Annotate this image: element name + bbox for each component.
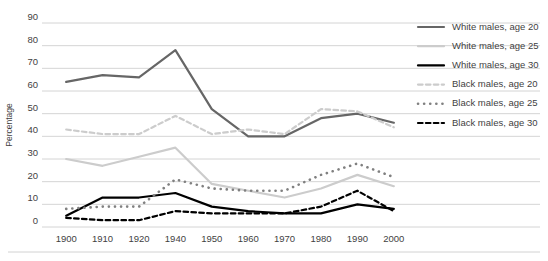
y-axis-tick-label: 50 bbox=[27, 102, 38, 113]
y-axis-tick-label: 90 bbox=[27, 11, 38, 22]
series-line-1 bbox=[66, 148, 394, 198]
x-axis-tick-label: 1960 bbox=[238, 233, 259, 244]
series-line-4 bbox=[66, 164, 394, 209]
y-axis-title: Percentage bbox=[4, 103, 14, 147]
x-axis-tick-label: 1940 bbox=[165, 233, 186, 244]
x-axis-tick-label: 2000 bbox=[383, 233, 404, 244]
x-axis-tick-label: 1900 bbox=[56, 233, 77, 244]
y-axis-tick-label: 30 bbox=[27, 147, 38, 158]
y-axis-tick-label: 80 bbox=[27, 34, 38, 45]
x-axis-tick-label: 1910 bbox=[92, 233, 113, 244]
y-axis-tick-label: 70 bbox=[27, 56, 38, 67]
line-chart: 0102030405060708090 19001910192019401950… bbox=[0, 0, 548, 261]
series-line-0 bbox=[66, 50, 394, 136]
y-axis-tick-label: 60 bbox=[27, 79, 38, 90]
x-axis-tick-label: 1980 bbox=[310, 233, 331, 244]
y-axis-tick-label: 40 bbox=[27, 124, 38, 135]
x-axis-tick-label: 1950 bbox=[201, 233, 222, 244]
x-axis-tick-labels: 1900191019201940195019601970198019902000 bbox=[56, 233, 405, 244]
chart-container: 0102030405060708090 19001910192019401950… bbox=[0, 0, 548, 261]
legend-label-0[interactable]: White males, age 20 bbox=[452, 21, 539, 32]
chart-legend: White males, age 20White males, age 25Wh… bbox=[418, 21, 539, 128]
x-axis-tick-label: 1990 bbox=[347, 233, 368, 244]
x-axis-tick-label: 1970 bbox=[274, 233, 295, 244]
legend-label-5[interactable]: Black males, age 30 bbox=[452, 117, 538, 128]
legend-label-1[interactable]: White males, age 25 bbox=[452, 40, 539, 51]
legend-label-4[interactable]: Black males, age 25 bbox=[452, 97, 538, 108]
y-axis-tick-labels: 0102030405060708090 bbox=[27, 11, 38, 226]
data-series bbox=[66, 50, 394, 220]
legend-label-2[interactable]: White males, age 30 bbox=[452, 59, 539, 70]
x-axis-tick-label: 1920 bbox=[128, 233, 149, 244]
y-axis-tick-label: 0 bbox=[33, 215, 38, 226]
y-axis-tick-label: 20 bbox=[27, 170, 38, 181]
legend-label-3[interactable]: Black males, age 20 bbox=[452, 78, 538, 89]
y-axis-tick-label: 10 bbox=[27, 192, 38, 203]
